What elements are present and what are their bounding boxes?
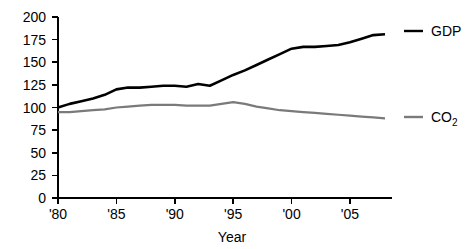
- x-axis-ticks: '80'85'90'95'00'05: [49, 198, 359, 222]
- chart-legend: GDPCO2: [404, 23, 461, 128]
- y-tick-label: 150: [23, 54, 47, 70]
- x-tick-label: '80: [49, 206, 67, 222]
- x-axis-title: Year: [218, 229, 247, 245]
- x-tick-label: '00: [282, 206, 300, 222]
- legend-label-co2: CO: [431, 109, 452, 125]
- y-tick-label: 25: [30, 167, 46, 183]
- legend-sublabel-co2: 2: [452, 117, 458, 128]
- y-axis-ticks: 0255075100125150175200: [23, 9, 58, 206]
- y-tick-label: 100: [23, 100, 47, 116]
- x-tick-label: '85: [107, 206, 125, 222]
- chart-canvas: 0255075100125150175200 '80'85'90'95'00'0…: [0, 0, 467, 249]
- series-lines: [58, 34, 385, 118]
- x-tick-label: '95: [224, 206, 242, 222]
- x-tick-label: '05: [341, 206, 359, 222]
- y-tick-label: 200: [23, 9, 47, 25]
- series-line-gdp: [58, 34, 385, 107]
- x-tick-label: '90: [166, 206, 184, 222]
- series-line-co2: [58, 102, 385, 118]
- y-tick-label: 175: [23, 32, 47, 48]
- legend-label-gdp: GDP: [431, 23, 461, 39]
- y-tick-label: 50: [30, 145, 46, 161]
- y-tick-label: 125: [23, 77, 47, 93]
- y-tick-label: 75: [30, 122, 46, 138]
- y-tick-label: 0: [38, 190, 46, 206]
- line-chart: 0255075100125150175200 '80'85'90'95'00'0…: [0, 0, 467, 249]
